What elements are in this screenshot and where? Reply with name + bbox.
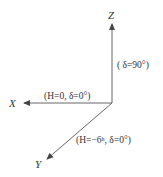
x-axis-label: X <box>8 97 17 109</box>
y-axis-annotation: (H=−6ʰ, δ=0°) <box>76 135 131 146</box>
y-axis-label: Y <box>35 158 43 170</box>
z-axis-annotation: ( δ=90°) <box>117 60 149 71</box>
coordinate-axes-diagram: Z X Y ( δ=90°) (H=0, δ=0°) (H=−6ʰ, δ=0°) <box>0 0 163 177</box>
y-axis <box>47 103 112 159</box>
z-axis-label: Z <box>108 9 115 21</box>
x-axis-annotation: (H=0, δ=0°) <box>44 91 90 102</box>
